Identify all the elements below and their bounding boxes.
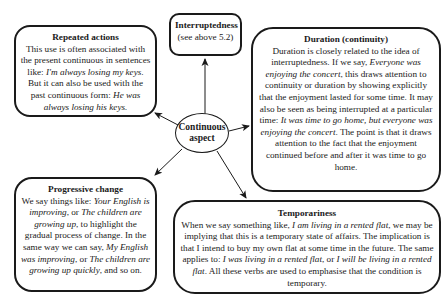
interruptedness-title: Interruptedness [175, 20, 236, 32]
duration-title: Duration (continuity) [257, 34, 435, 46]
arrow-to-temporariness [217, 151, 246, 198]
continuous-aspect-node: Continuous aspect [175, 113, 229, 153]
temporariness-box: Temporariness When we say something like… [173, 200, 441, 294]
repeated-actions-box: Repeated actions This use is often assoc… [14, 25, 157, 117]
temporariness-body: When we say something like, I am living … [179, 220, 435, 290]
arrow-to-duration [229, 126, 249, 131]
progressive-change-title: Progressive change [20, 184, 151, 196]
temporariness-title: Temporariness [179, 208, 435, 220]
duration-body: Duration is closely related to the idea … [257, 46, 435, 174]
repeated-actions-body: This use is often associated with the pr… [20, 44, 151, 114]
duration-box: Duration (continuity) Duration is closel… [251, 27, 441, 192]
center-line-1: Continuous [179, 122, 226, 132]
arrow-to-progressive-change [155, 149, 182, 175]
interruptedness-body: (see above 5.2) [175, 32, 236, 44]
progressive-change-body: We say things like: Your English is impr… [20, 196, 151, 277]
arrow-to-repeated-actions [155, 113, 178, 125]
interruptedness-box: Interruptedness (see above 5.2) [169, 13, 242, 56]
center-line-2: aspect [189, 133, 214, 143]
repeated-actions-title: Repeated actions [20, 32, 151, 44]
progressive-change-box: Progressive change We say things like: Y… [14, 177, 157, 292]
